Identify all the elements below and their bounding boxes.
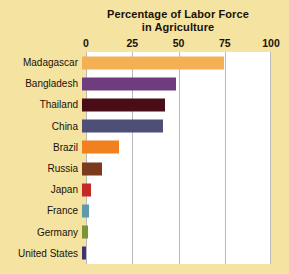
category-label-madagascar: Madagascar (0, 57, 82, 68)
bar-row: Russia (0, 158, 289, 179)
category-label-france: France (0, 205, 82, 216)
category-label-thailand: Thailand (0, 99, 82, 110)
category-label-russia: Russia (0, 163, 82, 174)
bar-track (82, 137, 267, 158)
bar-row: Thailand (0, 94, 289, 115)
x-axis-tick-25: 25 (126, 37, 138, 49)
bar-row: Germany (0, 222, 289, 243)
bar-rows: MadagascarBangladeshThailandChinaBrazilR… (0, 52, 289, 264)
bar-russia (82, 162, 102, 175)
bar-row: Bangladesh (0, 73, 289, 94)
bar-track (82, 158, 267, 179)
bar-thailand (82, 98, 165, 111)
bar-germany (82, 226, 88, 239)
x-axis-tick-50: 50 (173, 37, 185, 49)
bar-france (82, 204, 89, 217)
category-label-united-states: United States (0, 248, 82, 259)
bar-brazil (82, 141, 119, 154)
chart-title-line-1: Percentage of Labor Force (74, 8, 282, 21)
chart-title: Percentage of Labor Force in Agriculture (74, 8, 282, 33)
bar-united-states (82, 247, 86, 260)
bar-track (82, 243, 267, 264)
x-axis-tick-100: 100 (262, 37, 280, 49)
category-label-brazil: Brazil (0, 142, 82, 153)
bar-track (82, 52, 267, 73)
chart-title-line-2: in Agriculture (74, 21, 282, 34)
bar-track (82, 73, 267, 94)
x-axis-tick-0: 0 (83, 37, 89, 49)
bar-china (82, 120, 163, 133)
category-label-japan: Japan (0, 184, 82, 195)
category-label-china: China (0, 121, 82, 132)
bar-row: Brazil (0, 137, 289, 158)
bar-bangladesh (82, 77, 176, 90)
bar-track (82, 179, 267, 200)
bar-track (82, 200, 267, 221)
bar-track (82, 222, 267, 243)
bar-track (82, 94, 267, 115)
bar-row: China (0, 116, 289, 137)
x-axis-tick-labels: 0255075100 (0, 37, 289, 51)
bar-track (82, 116, 267, 137)
bar-row: France (0, 200, 289, 221)
category-label-germany: Germany (0, 227, 82, 238)
bar-madagascar (82, 56, 224, 69)
bar-row: United States (0, 243, 289, 264)
bar-japan (82, 183, 91, 196)
chart-container: Percentage of Labor Force in Agriculture… (0, 0, 289, 274)
bar-row: Japan (0, 179, 289, 200)
category-label-bangladesh: Bangladesh (0, 78, 82, 89)
bar-row: Madagascar (0, 52, 289, 73)
x-axis-tick-75: 75 (219, 37, 231, 49)
